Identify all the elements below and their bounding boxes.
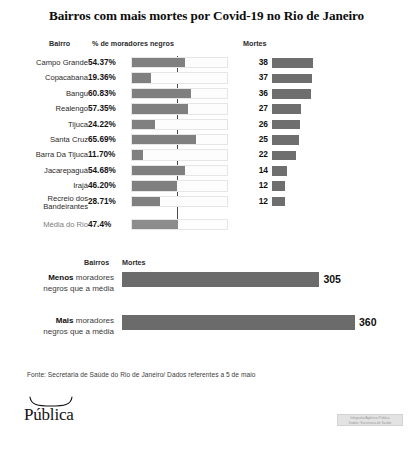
table-row: Realengo57.35%27 xyxy=(0,102,413,117)
table-row: Irajá46.20%12 xyxy=(0,179,413,194)
neighborhood-rows: Campo Grande54.37%38Copacabana19.36%37Ba… xyxy=(0,56,413,233)
percent-bar-fill xyxy=(132,104,188,113)
percent-bar-fill xyxy=(132,89,191,98)
percent-bar-fill xyxy=(132,73,151,82)
average-bar-track xyxy=(131,219,228,230)
percent-bar-fill xyxy=(132,58,185,67)
row-deaths-value: 37 xyxy=(248,71,268,82)
watermark-badge: Infografia/Agência Pública Dados: Secret… xyxy=(337,414,403,426)
row-percent-value: 24.22% xyxy=(88,118,128,129)
average-bar-fill xyxy=(132,220,178,229)
summary-bar xyxy=(122,272,319,287)
summary-column-header-mortes: Mortes xyxy=(122,258,146,267)
table-header-row: Bairro % de moradores negros Mortes xyxy=(0,39,413,51)
column-header-percent: % de moradores negros xyxy=(92,39,174,48)
percent-bar-fill xyxy=(132,166,185,175)
deaths-bar xyxy=(272,89,311,99)
row-label-neighborhood: Barra Da Tijuca xyxy=(0,148,88,159)
summary-column-header-bairros: Bairros xyxy=(84,258,109,267)
table-row: Tijuca24.22%26 xyxy=(0,118,413,133)
percent-bar-track xyxy=(131,57,228,68)
row-label-neighborhood: Recreio dosBandeirantes xyxy=(0,195,88,212)
row-label-neighborhood: Irajá xyxy=(0,179,88,190)
percent-bar-track xyxy=(131,149,228,160)
summary-row: Menos moradoresnegros que a média305 xyxy=(0,272,413,310)
row-deaths-value: 38 xyxy=(248,56,268,67)
row-percent-value: 54.37% xyxy=(88,56,128,67)
row-deaths-value: 36 xyxy=(248,87,268,98)
summary-value: 305 xyxy=(323,273,341,285)
watermark-line-2: Dados: Secretaria de Saúde xyxy=(338,420,402,425)
summary-bar xyxy=(122,315,355,330)
percent-bar-track xyxy=(131,165,228,176)
percent-bar-track xyxy=(131,119,228,130)
average-row: Média do Rio47.4% xyxy=(0,218,413,233)
deaths-bar xyxy=(272,181,285,191)
percent-bar-fill xyxy=(132,150,143,159)
deaths-bar xyxy=(272,74,312,84)
row-deaths-value: 22 xyxy=(248,148,268,159)
deaths-bar xyxy=(272,151,296,161)
table-row: Copacabana19.36%37 xyxy=(0,71,413,86)
average-row-value: 47.4% xyxy=(88,218,128,229)
summary-header-row: Bairros Mortes xyxy=(0,258,413,270)
table-row: Campo Grande54.37%38 xyxy=(0,56,413,71)
row-deaths-value: 12 xyxy=(248,179,268,190)
table-row: Santa Cruz65.69%25 xyxy=(0,133,413,148)
row-label-neighborhood: Tijuca xyxy=(0,118,88,129)
percent-bar-track xyxy=(131,196,228,207)
row-percent-value: 54.68% xyxy=(88,164,128,175)
row-percent-value: 11.70% xyxy=(88,148,128,159)
source-note: Fonte: Secretaria de Saúde do Rio de Jan… xyxy=(27,371,255,378)
row-percent-value: 65.69% xyxy=(88,133,128,144)
percent-bar-fill xyxy=(132,135,196,144)
percent-bar-track xyxy=(131,134,228,145)
row-label-neighborhood: Campo Grande xyxy=(0,56,88,67)
row-deaths-value: 26 xyxy=(248,118,268,129)
deaths-bar xyxy=(272,104,301,114)
deaths-bar xyxy=(272,197,285,207)
table-row: Jacarepaguá54.68%14 xyxy=(0,164,413,179)
logo-text: Pública xyxy=(24,405,74,425)
row-label-neighborhood: Realengo xyxy=(0,102,88,113)
table-row: Recreio dosBandeirantes28.71%12 xyxy=(0,195,413,218)
row-deaths-value: 25 xyxy=(248,133,268,144)
row-percent-value: 19.36% xyxy=(88,71,128,82)
deaths-bar xyxy=(272,120,300,130)
percent-bar-track xyxy=(131,72,228,83)
summary-row: Mais moradoresnegros que a média360 xyxy=(0,315,413,353)
table-row: Barra Da Tijuca11.70%22 xyxy=(0,148,413,163)
table-row: Bangu60.83%36 xyxy=(0,87,413,102)
row-percent-value: 46.20% xyxy=(88,179,128,190)
percent-bar-fill xyxy=(132,181,177,190)
row-deaths-value: 14 xyxy=(248,164,268,175)
row-percent-value: 60.83% xyxy=(88,87,128,98)
percent-bar-fill xyxy=(132,120,155,129)
summary-row-label: Mais moradoresnegros que a média xyxy=(0,315,114,337)
summary-row-label: Menos moradoresnegros que a média xyxy=(0,272,114,294)
row-label-neighborhood: Copacabana xyxy=(0,71,88,82)
row-label-neighborhood: Santa Cruz xyxy=(0,133,88,144)
summary-value: 360 xyxy=(359,316,377,328)
percent-bar-track xyxy=(131,103,228,114)
row-label-neighborhood: Bangu xyxy=(0,87,88,98)
column-header-mortes: Mortes xyxy=(243,39,267,48)
percent-bar-track xyxy=(131,88,228,99)
deaths-bar xyxy=(272,166,287,176)
row-percent-value: 28.71% xyxy=(88,195,128,206)
average-row-label: Média do Rio xyxy=(0,218,88,229)
column-header-bairro: Bairro xyxy=(49,39,70,48)
deaths-bar xyxy=(272,58,313,68)
row-percent-value: 57.35% xyxy=(88,102,128,113)
row-deaths-value: 27 xyxy=(248,102,268,113)
page-title: Bairros com mais mortes por Covid-19 no … xyxy=(0,8,413,24)
percent-bar-fill xyxy=(132,197,160,206)
row-label-neighborhood: Jacarepaguá xyxy=(0,164,88,175)
row-deaths-value: 12 xyxy=(248,195,268,206)
deaths-bar xyxy=(272,135,299,145)
percent-bar-track xyxy=(131,180,228,191)
publica-logo: Pública xyxy=(24,396,94,430)
